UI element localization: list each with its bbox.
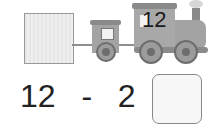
answer-input-box[interactable]	[152, 74, 202, 124]
car-wheel-hub	[102, 48, 110, 56]
minus-sign: -	[81, 80, 92, 112]
coupling-1	[72, 44, 94, 46]
smoke-icon	[189, 0, 203, 8]
gray-box-car	[24, 13, 74, 64]
car-window	[101, 28, 114, 40]
subtrahend: 2	[118, 80, 136, 112]
locomotive-wheel-hub-1	[147, 48, 155, 56]
minuend: 12	[20, 80, 56, 112]
locomotive-number: 12	[142, 9, 166, 31]
locomotive-wheel-hub-2	[182, 48, 190, 56]
coupling-2	[119, 44, 135, 46]
